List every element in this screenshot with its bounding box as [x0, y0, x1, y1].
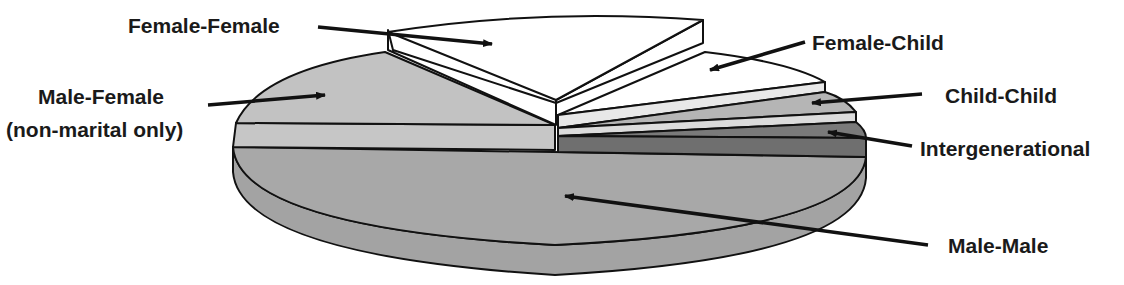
label-male-male: Male-Male	[948, 233, 1048, 259]
label-intergenerational: Intergenerational	[920, 136, 1090, 162]
label-male-female: Male-Female	[38, 84, 164, 110]
label-male-female-note: (non-marital only)	[6, 117, 183, 143]
label-child-child: Child-Child	[945, 83, 1057, 109]
label-female-child: Female-Child	[812, 30, 944, 56]
slice-male-female-side	[233, 123, 555, 150]
label-female-female: Female-Female	[128, 13, 280, 39]
